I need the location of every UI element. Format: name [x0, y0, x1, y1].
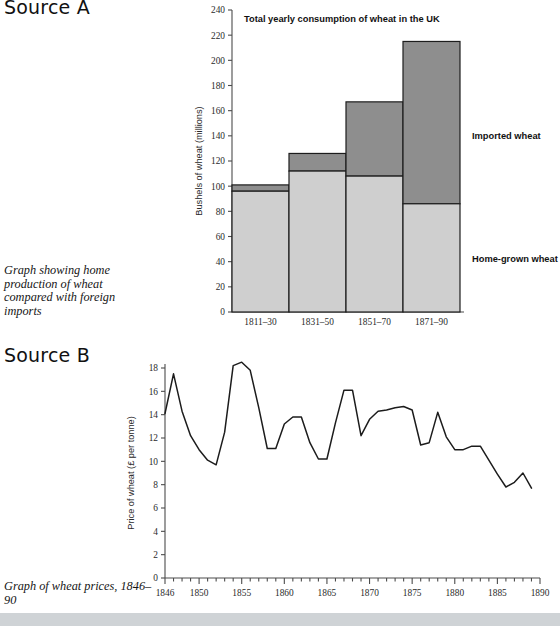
line-chart-svg: 0246810121416181846185018551860186518701…	[120, 340, 560, 605]
page-footer-bar	[0, 613, 560, 626]
line-x-tick-label-1870: 1870	[360, 588, 379, 598]
line-x-tick-label-1846: 1846	[156, 588, 175, 598]
line-y-tick-label: 10	[149, 457, 159, 467]
bar-segment-home-grown-4	[403, 204, 460, 312]
line-chart-figure: 0246810121416181846185018551860186518701…	[120, 340, 560, 605]
bar-segment-home-grown-3	[346, 176, 403, 312]
line-chart-plot-area	[165, 362, 531, 488]
source-a-caption: Graph showing home production of wheat c…	[4, 264, 154, 318]
line-x-tick-label-1875: 1875	[403, 588, 422, 598]
document-page: Source A Graph showing home production o…	[0, 0, 560, 626]
wheat-price-line	[165, 362, 531, 488]
line-x-tick-label-1850: 1850	[190, 588, 209, 598]
line-chart-labels: Price of wheat (£ per tonne)	[126, 416, 136, 529]
bar-y-tick-label: 180	[211, 81, 225, 91]
line-chart-axes: 0246810121416181846185018551860186518701…	[149, 363, 550, 598]
bar-y-axis-title: Bushels of wheat (millions)	[194, 106, 204, 215]
bar-legend-label-imported: Imported wheat	[472, 131, 541, 141]
bar-y-tick-label: 160	[211, 106, 225, 116]
line-x-tick-label-1890: 1890	[531, 588, 550, 598]
bar-x-tick-label-4: 1871–90	[415, 317, 448, 327]
bar-y-tick-label: 120	[211, 156, 225, 166]
line-y-tick-label: 0	[153, 573, 158, 583]
bar-x-tick-label-3: 1851–70	[358, 317, 391, 327]
source-b-heading: Source B	[4, 344, 90, 366]
line-y-axis-title: Price of wheat (£ per tonne)	[126, 416, 136, 529]
bar-segment-imported-4	[403, 41, 460, 203]
bar-legend-label-home-grown: Home-grown wheat	[472, 254, 558, 264]
bar-x-tick-label-2: 1831–50	[301, 317, 334, 327]
line-y-tick-label: 2	[153, 550, 158, 560]
line-x-tick-label-1880: 1880	[445, 588, 464, 598]
bar-y-tick-label: 40	[216, 257, 226, 267]
bar-y-tick-label: 200	[211, 56, 225, 66]
bar-y-tick-label: 60	[216, 232, 226, 242]
line-x-tick-label-1885: 1885	[488, 588, 507, 598]
bar-segment-imported-1	[232, 185, 289, 191]
bar-y-tick-label: 140	[211, 131, 225, 141]
line-y-tick-label: 4	[153, 527, 158, 537]
line-y-tick-label: 14	[149, 410, 159, 420]
bar-y-tick-label: 80	[216, 207, 226, 217]
line-x-tick-label-1860: 1860	[275, 588, 294, 598]
bar-chart-svg: 0204060801001201401601802002202401811–30…	[190, 0, 560, 335]
bar-y-tick-label: 240	[211, 5, 225, 15]
line-y-tick-label: 18	[149, 363, 159, 373]
bar-segment-imported-3	[346, 102, 403, 176]
bar-y-tick-label: 0	[220, 307, 225, 317]
bar-segment-home-grown-2	[289, 171, 346, 312]
line-y-tick-label: 12	[149, 433, 159, 443]
bar-chart-plot-area	[232, 41, 460, 312]
bar-y-tick-label: 100	[211, 182, 225, 192]
bar-y-tick-label: 20	[216, 282, 226, 292]
bar-x-tick-label-1: 1811–30	[244, 317, 277, 327]
line-x-tick-label-1865: 1865	[318, 588, 337, 598]
source-a-heading: Source A	[4, 0, 90, 18]
bar-chart-title: Total yearly consumption of wheat in the…	[244, 14, 440, 24]
bar-chart-figure: 0204060801001201401601802002202401811–30…	[190, 0, 560, 335]
line-x-tick-label-1855: 1855	[232, 588, 251, 598]
bar-segment-home-grown-1	[232, 191, 289, 312]
line-y-tick-label: 6	[153, 503, 158, 513]
bar-y-tick-label: 220	[211, 31, 225, 41]
line-y-tick-label: 16	[149, 387, 159, 397]
bar-segment-imported-2	[289, 153, 346, 171]
line-y-tick-label: 8	[153, 480, 158, 490]
